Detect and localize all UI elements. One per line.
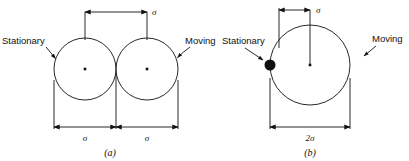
stationary-point-particle bbox=[265, 60, 276, 71]
moving-sphere-center-dot bbox=[146, 68, 149, 71]
panel-a: σ Stationary Moving σ σ (a) bbox=[2, 7, 216, 159]
panel-b-top-dimension-label: σ bbox=[316, 5, 321, 15]
panel-a-moving-leader-arrow bbox=[178, 47, 191, 58]
panel-b-bottom-dimension-label: 2σ bbox=[306, 133, 316, 143]
diagram-canvas: σ Stationary Moving σ σ (a) bbox=[0, 0, 409, 161]
panel-b-stationary-label: Stationary bbox=[222, 35, 265, 46]
panel-b: σ Stationary Moving 2σ (b) bbox=[222, 5, 403, 159]
panel-a-stationary-label: Stationary bbox=[2, 35, 45, 46]
panel-b-stationary-leader-arrow bbox=[245, 48, 263, 60]
panel-a-stationary-leader-arrow bbox=[46, 47, 56, 59]
collision-circle-center-dot bbox=[309, 64, 312, 67]
panel-a-bottom-dimension-label-left: σ bbox=[83, 133, 88, 143]
panel-a-top-dimension-label: σ bbox=[152, 7, 157, 17]
panel-b-moving-label: Moving bbox=[372, 33, 403, 44]
figure-container: σ Stationary Moving σ σ (a) bbox=[0, 0, 409, 161]
panel-b-caption: (b) bbox=[304, 147, 316, 159]
panel-a-moving-label: Moving bbox=[185, 35, 216, 46]
panel-a-bottom-dimension-label-right: σ bbox=[145, 133, 150, 143]
stationary-sphere-center-dot bbox=[84, 68, 87, 71]
panel-a-caption: (a) bbox=[104, 147, 116, 159]
panel-b-moving-leader-arrow bbox=[364, 46, 376, 56]
